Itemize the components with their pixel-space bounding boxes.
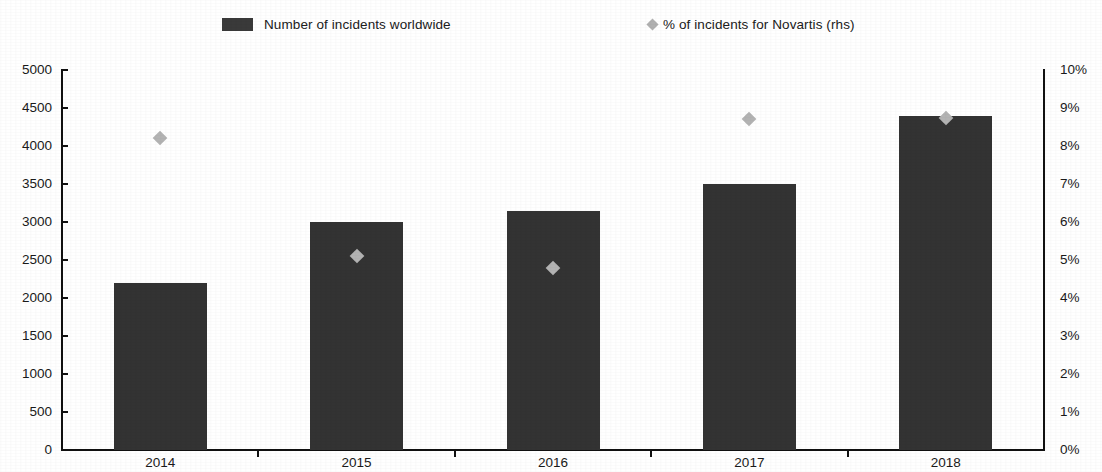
legend-item-novartis-pct: % of incidents for Novartis (rhs) [647, 14, 855, 34]
legend-label-incidents: Number of incidents worldwide [264, 17, 451, 32]
bar-2014 [114, 283, 207, 450]
y-axis-right-tick-label: 0% [1060, 443, 1102, 457]
y-axis-left-tick-label: 2000 [6, 291, 52, 305]
bar-2016 [507, 211, 600, 450]
y-axis-right-tick-label: 6% [1060, 215, 1102, 229]
y-axis-right-tick-label: 4% [1060, 291, 1102, 305]
x-axis-label-2016: 2016 [493, 455, 613, 470]
y-axis-left-tick-label: 0 [6, 443, 52, 457]
marker-2017 [742, 112, 757, 127]
y-axis-right-tick-label: 7% [1060, 177, 1102, 191]
x-axis-tick [650, 451, 652, 457]
bar-2018 [899, 116, 992, 450]
x-axis-label-2017: 2017 [689, 455, 809, 470]
y-axis-left-tick-label: 1500 [6, 329, 52, 343]
y-axis-right-tick-label: 3% [1060, 329, 1102, 343]
x-axis-label-2014: 2014 [100, 455, 220, 470]
y-axis-left-tick-label: 3000 [6, 215, 52, 229]
legend-item-incidents: Number of incidents worldwide [222, 14, 451, 34]
y-axis-left-tick-label: 3500 [6, 177, 52, 191]
legend-diamond-marker-icon [646, 18, 658, 30]
legend-label-novartis-pct: % of incidents for Novartis (rhs) [663, 17, 855, 32]
x-axis-tick [257, 451, 259, 457]
y-axis-left-tick-label: 2500 [6, 253, 52, 267]
bar-2017 [703, 184, 796, 450]
y-axis-right-tick-label: 1% [1060, 405, 1102, 419]
y-axis-left-tick-label: 1000 [6, 367, 52, 381]
legend-bar-swatch-icon [222, 18, 253, 31]
y-axis-left-tick-label: 4000 [6, 139, 52, 153]
plot-area [62, 70, 1044, 450]
y-axis-left-tick-label: 4500 [6, 101, 52, 115]
y-axis-right-tick-label: 5% [1060, 253, 1102, 267]
chart-legend: Number of incidents worldwide % of incid… [0, 12, 1102, 38]
y-axis-left-tick-label: 5000 [6, 63, 52, 77]
y-axis-right-tick-label: 10% [1060, 63, 1102, 77]
x-axis-label-2015: 2015 [297, 455, 417, 470]
x-axis-label-2018: 2018 [886, 455, 1006, 470]
y-axis-right-tick-label: 9% [1060, 101, 1102, 115]
marker-2014 [153, 131, 168, 146]
y-axis-right-tick-label: 2% [1060, 367, 1102, 381]
y-axis-left-tick-label: 500 [6, 405, 52, 419]
x-axis-tick [454, 451, 456, 457]
x-axis-tick [847, 451, 849, 457]
chart-figure: Number of incidents worldwide % of incid… [0, 0, 1102, 472]
y-axis-right-tick-label: 8% [1060, 139, 1102, 153]
